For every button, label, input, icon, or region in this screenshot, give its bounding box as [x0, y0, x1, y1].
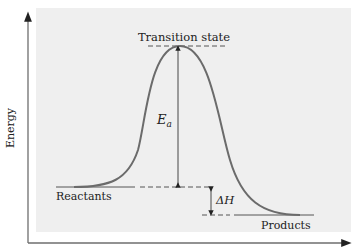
enthalpy-label: ΔH	[215, 193, 235, 207]
transition-state-label: Transition state	[138, 30, 230, 44]
products-label: Products	[261, 219, 311, 232]
energy-profile-figure: Transition state Ea ΔH Reactants Product…	[0, 0, 355, 251]
reactants-label: Reactants	[56, 190, 112, 203]
y-axis-label: Energy	[4, 107, 17, 148]
energy-diagram: Transition state Ea ΔH Reactants Product…	[0, 0, 355, 251]
